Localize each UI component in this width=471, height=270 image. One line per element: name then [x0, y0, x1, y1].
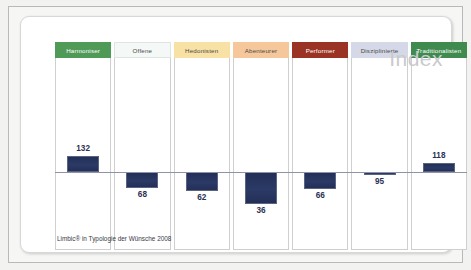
column-body — [351, 58, 407, 250]
bar-traditionalisten[interactable] — [423, 163, 455, 172]
category-column: Traditionalisten — [411, 42, 467, 250]
column-header-harmoniser[interactable]: Harmoniser — [55, 42, 111, 58]
column-body — [292, 58, 348, 250]
column-body — [114, 58, 170, 250]
column-header-hedonisten[interactable]: Hedonisten — [174, 42, 230, 58]
column-body — [174, 58, 230, 250]
bar-value-label: 36 — [237, 206, 285, 215]
category-column: Abenteurer — [233, 42, 289, 250]
screenshot-frame: Index HarmoniserOffeneHedonistenAbenteur… — [0, 0, 471, 270]
column-body — [233, 58, 289, 250]
source-note: Limbic® in Typologie der Wünsche 2008 — [57, 235, 171, 242]
bar-abenteurer[interactable] — [245, 172, 277, 204]
bar-offene[interactable] — [126, 172, 158, 188]
bar-hedonisten[interactable] — [186, 172, 218, 191]
category-column: Offene — [114, 42, 170, 250]
chart-card: Index HarmoniserOffeneHedonistenAbenteur… — [20, 16, 452, 253]
chart-plot-area: HarmoniserOffeneHedonistenAbenteurerPerf… — [55, 42, 467, 257]
bar-value-label: 118 — [415, 151, 463, 160]
bar-value-label: 62 — [178, 193, 226, 202]
bar-harmoniser[interactable] — [67, 156, 99, 172]
bar-value-label: 66 — [296, 191, 344, 200]
index-watermark: Index — [389, 47, 443, 71]
category-column: Hedonisten — [174, 42, 230, 250]
bar-value-label: 132 — [59, 144, 107, 153]
bar-value-label: 68 — [118, 190, 166, 199]
bar-value-label: 95 — [356, 177, 404, 186]
column-header-offene[interactable]: Offene — [114, 42, 170, 58]
column-body — [55, 58, 111, 250]
category-column: Performer — [292, 42, 348, 250]
category-column: Disziplinierte — [351, 42, 407, 250]
bar-performer[interactable] — [304, 172, 336, 189]
column-header-abenteurer[interactable]: Abenteurer — [233, 42, 289, 58]
zero-baseline — [55, 172, 467, 173]
column-header-performer[interactable]: Performer — [292, 42, 348, 58]
